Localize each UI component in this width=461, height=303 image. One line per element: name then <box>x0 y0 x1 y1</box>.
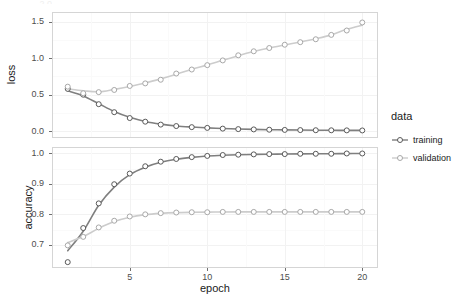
data-point <box>220 153 225 158</box>
data-point <box>96 102 101 107</box>
data-point <box>282 209 287 214</box>
data-point <box>143 119 148 124</box>
x-tick-label: 5 <box>115 273 145 282</box>
data-point <box>189 67 194 72</box>
data-point <box>158 159 163 164</box>
data-point <box>220 209 225 214</box>
data-point <box>189 210 194 215</box>
data-point <box>267 127 272 132</box>
y-tick-label: 1.0 <box>18 54 44 63</box>
y-tick-mark <box>49 22 52 23</box>
data-point <box>267 46 272 51</box>
data-point <box>65 84 70 89</box>
series-line-validation <box>68 212 363 243</box>
data-point <box>189 125 194 130</box>
y-tick-label: 0.5 <box>18 90 44 99</box>
data-point <box>112 87 117 92</box>
data-point <box>174 210 179 215</box>
data-point <box>329 32 334 37</box>
data-point <box>360 128 365 133</box>
data-point <box>360 20 365 25</box>
data-point <box>344 151 349 156</box>
legend: data trainingvalidation <box>391 111 461 167</box>
data-point <box>267 209 272 214</box>
data-point <box>112 110 117 115</box>
data-point <box>313 151 318 156</box>
y-tick-mark <box>49 95 52 96</box>
series-line-training <box>68 153 363 250</box>
legend-key-icon <box>391 149 409 167</box>
data-point <box>174 71 179 76</box>
data-point <box>158 77 163 82</box>
data-point <box>313 209 318 214</box>
data-point <box>81 91 86 96</box>
data-point <box>158 211 163 216</box>
data-point <box>81 234 86 239</box>
data-point <box>298 128 303 133</box>
data-point <box>251 209 256 214</box>
data-point <box>127 116 132 121</box>
data-point <box>96 201 101 206</box>
panel-accuracy <box>52 147 378 268</box>
data-point <box>313 128 318 133</box>
data-point <box>127 83 132 88</box>
x-tick-mark <box>207 268 208 271</box>
chart-screenshot: 2.0 0.00.51.01.5 loss 0.70.80.91.0 accur… <box>0 0 461 303</box>
data-point <box>282 127 287 132</box>
data-point <box>360 151 365 156</box>
data-point <box>236 152 241 157</box>
panel-accuracy-inner <box>53 148 377 267</box>
data-point <box>174 124 179 129</box>
data-point <box>220 58 225 63</box>
data-point <box>344 28 349 33</box>
data-point <box>251 152 256 157</box>
x-tick-label: 20 <box>347 273 377 282</box>
x-tick-label: 10 <box>192 273 222 282</box>
y-tick-mark <box>49 245 52 246</box>
y-tick-mark <box>49 58 52 59</box>
x-tick-label: 15 <box>270 273 300 282</box>
y-tick-mark <box>49 131 52 132</box>
x-tick-mark <box>362 268 363 271</box>
data-point <box>158 122 163 127</box>
data-point <box>112 182 117 187</box>
data-point <box>236 53 241 58</box>
data-point <box>65 243 70 248</box>
data-point <box>143 164 148 169</box>
y-tick-label: 1.5 <box>18 17 44 26</box>
data-point <box>174 156 179 161</box>
panel-loss-inner <box>53 13 377 137</box>
data-point <box>360 209 365 214</box>
panel-loss-data-layer <box>53 13 377 137</box>
data-point <box>205 153 210 158</box>
data-point <box>344 209 349 214</box>
data-point <box>236 127 241 132</box>
data-point <box>267 152 272 157</box>
legend-label: training <box>413 136 443 145</box>
legend-key-icon <box>391 131 409 149</box>
data-point <box>65 260 70 265</box>
series-points-validation <box>65 209 365 247</box>
data-point <box>298 209 303 214</box>
data-point <box>236 209 241 214</box>
data-point <box>112 218 117 223</box>
series-points-training <box>65 151 365 265</box>
data-point <box>189 155 194 160</box>
legend-item-validation[interactable]: validation <box>391 149 461 167</box>
x-tick-mark <box>130 268 131 271</box>
y-tick-label: 0.0 <box>18 127 44 136</box>
clipped-tick-label: 2.0 <box>26 0 52 4</box>
data-point <box>251 49 256 54</box>
legend-label: validation <box>413 154 451 163</box>
data-point <box>96 225 101 230</box>
data-point <box>313 37 318 42</box>
data-point <box>298 40 303 45</box>
data-point <box>251 127 256 132</box>
legend-items: trainingvalidation <box>391 131 461 167</box>
series-line-validation <box>68 25 363 92</box>
data-point <box>81 226 86 231</box>
legend-item-training[interactable]: training <box>391 131 461 149</box>
panel-accuracy-data-layer <box>53 148 377 267</box>
data-point <box>329 151 334 156</box>
data-point <box>205 210 210 215</box>
